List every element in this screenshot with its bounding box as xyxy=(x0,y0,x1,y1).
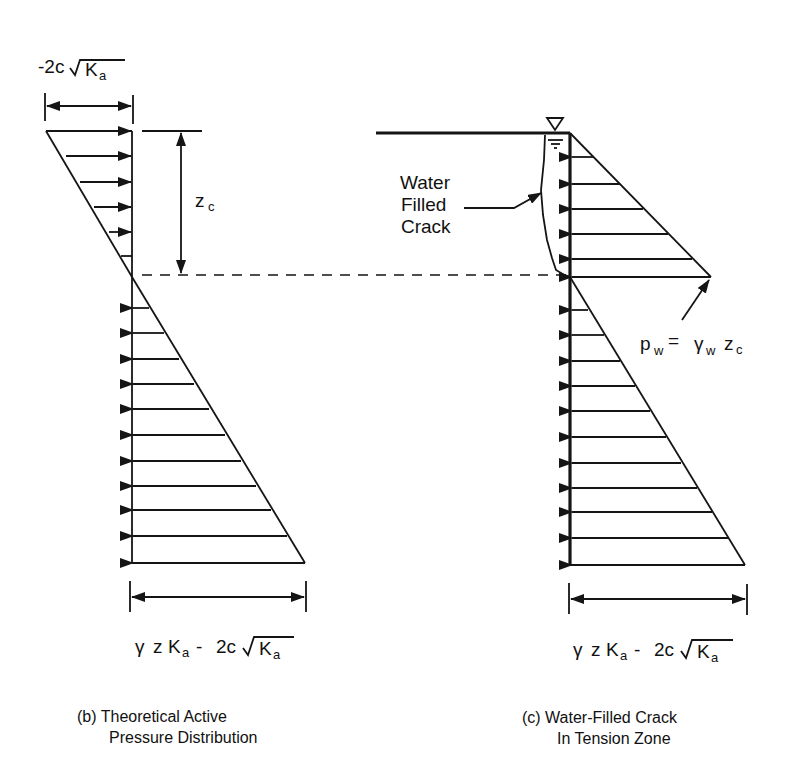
crack-depth-label: z xyxy=(195,190,205,211)
caption-b-line2: Pressure Distribution xyxy=(109,729,258,746)
svg-text:2c: 2c xyxy=(216,636,236,657)
crack-leader-arrow xyxy=(464,193,541,208)
svg-text:z: z xyxy=(153,636,163,657)
svg-text:2c: 2c xyxy=(654,639,674,660)
svg-text:z: z xyxy=(591,639,601,660)
tension-label-subscript: a xyxy=(99,68,107,83)
caption-c-line2: In Tension Zone xyxy=(557,730,671,747)
panel-b-theoretical-active-pressure: -2c K a z c xyxy=(38,56,306,746)
svg-text:=: = xyxy=(668,330,679,351)
water-pressure-triangle-edge xyxy=(570,133,711,277)
water-pressure-label: p w = γ w z c xyxy=(640,330,743,358)
water-filled-crack-outline xyxy=(541,135,566,276)
panel-c-water-filled-crack: Water Filled Crack p w = γ w z c xyxy=(376,118,747,747)
crack-label-line1: Water xyxy=(400,172,451,193)
net-pressure-dimension-line-c xyxy=(569,583,747,615)
svg-text:z: z xyxy=(724,333,734,354)
tension-triangle-edge xyxy=(46,131,132,277)
earth-pressure-diagram: -2c K a z c xyxy=(0,0,792,757)
svg-text:γ: γ xyxy=(135,636,145,657)
svg-text:a: a xyxy=(620,648,628,663)
svg-text:c: c xyxy=(736,342,743,357)
svg-text:γ: γ xyxy=(573,639,583,660)
svg-text:-: - xyxy=(196,636,202,657)
svg-text:-: - xyxy=(634,639,640,660)
tension-label-prefix: -2c xyxy=(38,56,64,77)
crack-depth-dimension: z c xyxy=(142,131,215,273)
svg-text:γ: γ xyxy=(694,333,704,354)
net-pressure-dimension-line-b xyxy=(130,581,306,612)
tension-arrows xyxy=(46,131,132,256)
water-pressure-arrows xyxy=(572,157,711,277)
svg-text:K: K xyxy=(259,638,272,659)
svg-text:a: a xyxy=(273,647,281,662)
crack-depth-subscript: c xyxy=(208,199,215,214)
svg-text:w: w xyxy=(705,343,716,358)
crack-label-line3: Crack xyxy=(401,216,451,237)
compression-arrows-b xyxy=(133,308,305,563)
tension-dimension-line xyxy=(45,93,133,124)
crack-label-line2: Filled xyxy=(401,194,446,215)
svg-text:K: K xyxy=(168,636,181,657)
svg-text:w: w xyxy=(653,343,664,358)
net-pressure-formula-b: γ z K a - 2c K a xyxy=(135,636,294,662)
caption-c-line1: (c) Water-Filled Crack xyxy=(522,709,678,726)
compression-triangle-edge xyxy=(132,277,305,563)
net-pressure-formula-c: γ z K a - 2c K a xyxy=(573,639,733,665)
water-pressure-leader-arrow xyxy=(682,280,709,320)
svg-text:K: K xyxy=(606,639,619,660)
svg-text:a: a xyxy=(182,645,190,660)
svg-text:p: p xyxy=(640,333,651,354)
tension-label-radicand: K xyxy=(85,59,98,80)
caption-b-line1: (b) Theoretical Active xyxy=(77,708,227,725)
svg-text:K: K xyxy=(697,641,710,662)
svg-text:a: a xyxy=(711,650,719,665)
soil-pressure-triangle-edge xyxy=(570,277,745,565)
tension-dimension-label: -2c K a xyxy=(38,56,125,83)
